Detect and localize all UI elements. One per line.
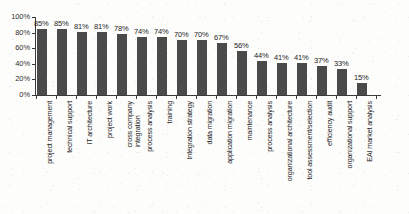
bar-value-label: 81% <box>94 23 108 31</box>
x-category-label: training <box>166 101 174 123</box>
x-category-label: project management <box>46 101 54 164</box>
x-category-label: application migration <box>226 101 234 164</box>
x-tick-mark <box>336 96 337 99</box>
y-tick-mark <box>32 64 35 65</box>
x-tick-mark <box>116 96 117 99</box>
bar-column: 15% <box>356 17 376 95</box>
y-tick-label-80pct: 80% <box>0 29 30 37</box>
x-category-label: tool assessment/selection <box>306 101 314 180</box>
x-tick-mark <box>216 96 217 99</box>
x-category-label-line: tool assessment/selection <box>306 101 314 180</box>
x-tick-mark <box>36 96 37 99</box>
bar-column: 70% <box>196 17 216 95</box>
bar-value-label: 74% <box>154 28 168 36</box>
bar-column: 74% <box>136 17 156 95</box>
x-category-label-line: efficiency audit <box>326 101 334 146</box>
x-category-label: data migration <box>206 101 214 144</box>
x-category-label-line: project management <box>46 101 54 164</box>
x-category-label: process analysis <box>266 101 274 152</box>
plot-area: 85%85%81%81%78%74%74%70%70%67%56%44%41%4… <box>36 17 382 95</box>
x-category-label: organizational architecture <box>286 101 294 181</box>
x-tick-mark <box>236 96 237 99</box>
x-tick-mark <box>176 96 177 99</box>
bar-column: 81% <box>76 17 96 95</box>
y-tick-mark <box>32 48 35 49</box>
bar-value-label: 15% <box>354 74 368 82</box>
bar-column: 56% <box>236 17 256 95</box>
bar <box>177 40 187 95</box>
bar-column: 81% <box>96 17 116 95</box>
bar <box>317 66 327 95</box>
bar <box>237 51 247 95</box>
x-category-label-line: IT architecture <box>86 101 94 145</box>
x-category-label: Integration strategy <box>186 101 194 160</box>
bar-value-label: 81% <box>74 23 88 31</box>
bar <box>37 29 47 95</box>
x-tick-mark <box>56 96 57 99</box>
bar <box>217 43 227 95</box>
x-axis-line <box>35 95 381 96</box>
bar-column: 67% <box>216 17 236 95</box>
x-category-label: process analysis <box>146 101 154 152</box>
x-category-label: cross companyintegration <box>126 101 142 147</box>
x-category-label: organizational support <box>346 101 354 168</box>
x-category-label-line: process analysis <box>266 101 274 152</box>
bar <box>157 37 167 95</box>
bar-value-label: 70% <box>194 31 208 39</box>
bar-value-label: 33% <box>334 60 348 68</box>
bar-value-label: 41% <box>294 54 308 62</box>
x-category-label-line: application migration <box>226 101 234 164</box>
bar <box>77 32 87 95</box>
bar <box>297 63 307 95</box>
y-tick-label-0pct: 0% <box>0 91 30 99</box>
y-tick-label-20pct: 20% <box>0 75 30 83</box>
bar <box>137 37 147 95</box>
bar-column: 85% <box>36 17 56 95</box>
y-tick-label-60pct: 60% <box>0 44 30 52</box>
x-tick-mark <box>276 96 277 99</box>
x-tick-mark <box>196 96 197 99</box>
bar-value-label: 78% <box>114 25 128 33</box>
bar <box>257 61 267 95</box>
y-tick-label-40pct: 40% <box>0 60 30 68</box>
y-tick-label-100pct: 100% <box>0 13 30 21</box>
x-category-label-line: data migration <box>206 101 214 144</box>
bar-column: 85% <box>56 17 76 95</box>
bar <box>117 34 127 95</box>
x-category-label-line: organizational architecture <box>286 101 294 181</box>
x-tick-mark <box>376 96 377 99</box>
y-tick-mark <box>32 17 35 18</box>
y-tick-mark <box>32 79 35 80</box>
bar <box>57 29 67 95</box>
bar <box>97 32 107 95</box>
bar-value-label: 67% <box>214 34 228 42</box>
x-category-label-line: integration <box>134 101 142 147</box>
bar-value-label: 85% <box>54 20 68 28</box>
x-tick-mark <box>96 96 97 99</box>
bar-column: 78% <box>116 17 136 95</box>
bar-value-label: 56% <box>234 42 248 50</box>
x-category-label-line: organizational support <box>346 101 354 168</box>
x-tick-mark <box>356 96 357 99</box>
bar-column: 74% <box>156 17 176 95</box>
bar-chart: 0%20%40%60%80%100% 85%85%81%81%78%74%74%… <box>0 0 409 214</box>
x-category-label-line: technical support <box>66 101 74 153</box>
x-category-label-line: project work <box>106 101 114 138</box>
x-tick-mark <box>76 96 77 99</box>
bar-value-label: 85% <box>34 20 48 28</box>
x-category-label: maintenance <box>246 101 254 141</box>
x-tick-mark <box>316 96 317 99</box>
bar-column: 44% <box>256 17 276 95</box>
bar-value-label: 41% <box>274 54 288 62</box>
bar-column: 41% <box>276 17 296 95</box>
bar-column: 37% <box>316 17 336 95</box>
x-category-label-line: Integration strategy <box>186 101 194 160</box>
x-tick-mark <box>296 96 297 99</box>
x-tick-mark <box>156 96 157 99</box>
bar-value-label: 70% <box>174 31 188 39</box>
x-category-label-line: maintenance <box>246 101 254 141</box>
bar-value-label: 44% <box>254 52 268 60</box>
x-category-label-line: process analysis <box>146 101 154 152</box>
bar <box>337 69 347 95</box>
bar-column: 41% <box>296 17 316 95</box>
